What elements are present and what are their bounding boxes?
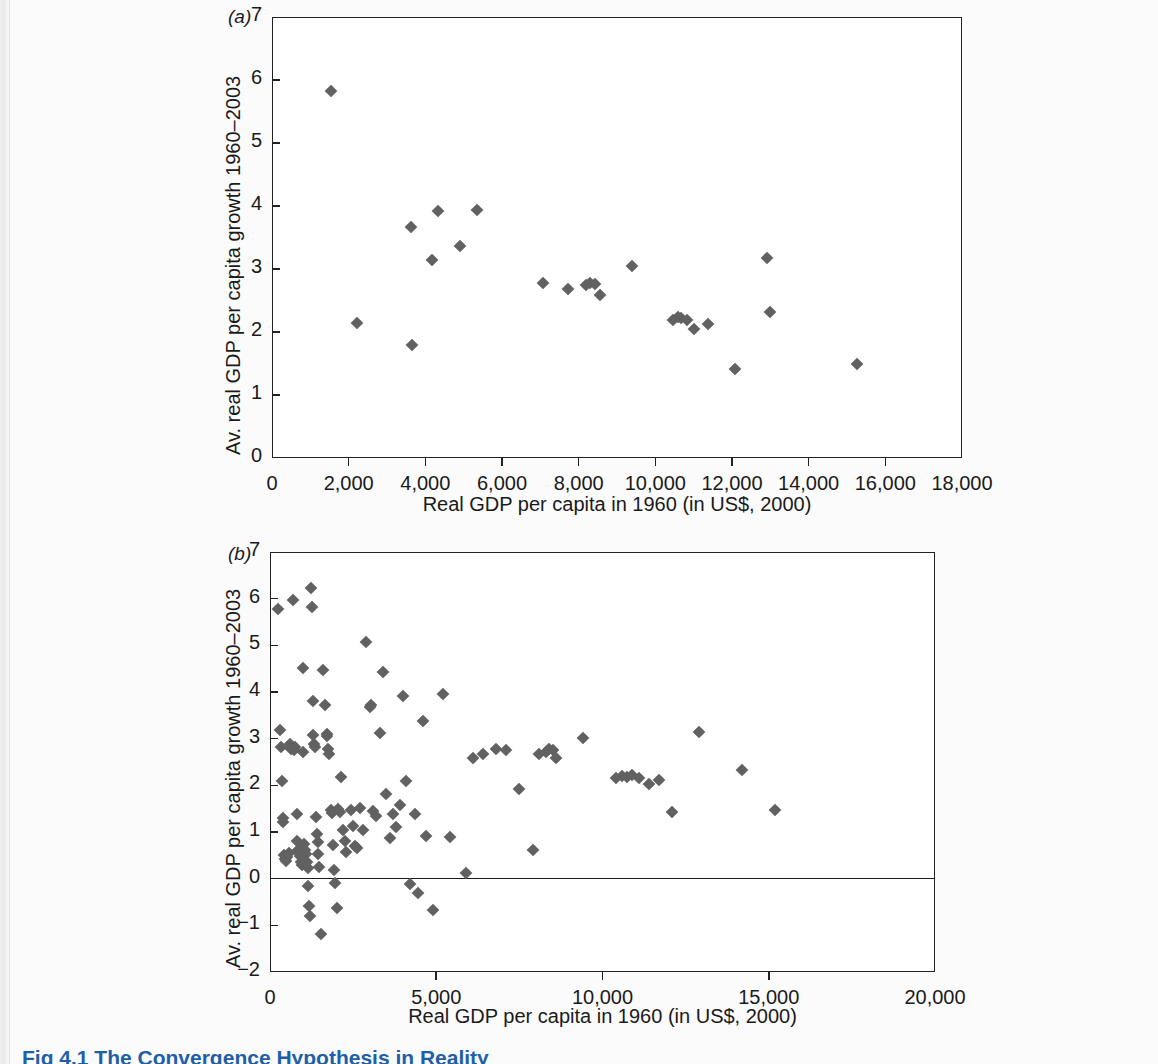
panel-y-tick (270, 738, 278, 740)
panel-x-tick-label: 5,000 (386, 986, 486, 1009)
figure-caption: Fig 4.1 The Convergence Hypothesis in Re… (22, 1046, 922, 1064)
panel-x-tick (435, 972, 437, 980)
panel-y-tick-label: −2 (208, 958, 260, 981)
panel-y-tick-label: 6 (208, 585, 260, 608)
panel-zero-line (270, 878, 935, 880)
panel-y-tick-label: 5 (208, 631, 260, 654)
panel-x-tick-label: 20,000 (885, 986, 985, 1009)
panel-y-tick-label: 3 (208, 725, 260, 748)
panel-y-tick-label: 0 (208, 865, 260, 888)
panel-x-tick (768, 972, 770, 980)
panel-y-tick-label: 1 (208, 818, 260, 841)
chart-panel-b: (b) Real GDP per capita in 1960 (in US$,… (0, 0, 1158, 1040)
panel-y-tick (270, 831, 278, 833)
panel-y-tick-label: 7 (208, 538, 260, 561)
panel-x-tick-label: 15,000 (719, 986, 819, 1009)
panel-y-tick (270, 785, 278, 787)
panel-y-tick-label: −1 (208, 911, 260, 934)
panel-y-tick (270, 691, 278, 693)
panel-b-plot-area (270, 552, 935, 972)
figure-page: (a) Real GDP per capita in 1960 (in US$,… (0, 0, 1158, 1064)
panel-x-tick-label: 10,000 (553, 986, 653, 1009)
panel-y-tick-label: 2 (208, 771, 260, 794)
panel-x-tick (602, 972, 604, 980)
panel-y-tick-label: 4 (208, 678, 260, 701)
panel-y-tick (270, 925, 278, 927)
panel-y-tick (270, 645, 278, 647)
panel-y-tick (270, 598, 278, 600)
panel-x-tick-label: 0 (220, 986, 320, 1009)
